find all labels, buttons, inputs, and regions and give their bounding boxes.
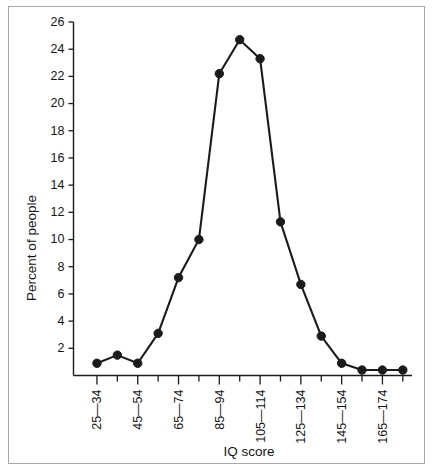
y-axis-title: Percent of people [24, 195, 39, 301]
data-point [337, 359, 345, 367]
y-tick-label: 18 [51, 124, 65, 138]
y-tick-label: 22 [51, 69, 65, 83]
y-tick-label: 4 [58, 314, 65, 328]
x-tick-label: 145—154 [335, 389, 349, 443]
x-axis-tick-labels: 25—3445—5465—7485—94105—114125—134145—15… [90, 389, 389, 443]
data-point [174, 273, 182, 281]
data-point [317, 332, 325, 340]
data-point [276, 218, 284, 226]
data-point [215, 69, 223, 77]
data-point [256, 55, 264, 63]
x-tick-label: 105—114 [254, 389, 268, 442]
y-tick-label: 8 [58, 260, 65, 274]
y-tick-label: 10 [51, 232, 65, 246]
data-point [113, 351, 121, 359]
x-tick-label: 65—74 [172, 389, 186, 429]
data-point [93, 359, 101, 367]
data-point [378, 366, 386, 374]
y-tick-label: 2 [58, 341, 65, 355]
x-tick-label: 25—34 [90, 389, 104, 429]
y-tick-label: 26 [51, 15, 65, 29]
chart-stage: Percent of people 2468101214161820222426… [0, 0, 434, 475]
x-tick-label: 45—54 [131, 389, 145, 429]
data-point [154, 329, 162, 337]
x-axis-ticks [97, 376, 403, 385]
iq-distribution-line-chart: Percent of people 2468101214161820222426… [0, 0, 434, 475]
x-tick-label: 165—174 [376, 389, 390, 443]
y-tick-label: 20 [51, 96, 65, 110]
percent-of-people-series-line [97, 40, 403, 370]
data-point [399, 366, 407, 374]
y-axis-ticks: 2468101214161820222426 [51, 15, 74, 355]
data-point [134, 359, 142, 367]
y-tick-label: 24 [51, 42, 65, 56]
x-tick-label: 125—134 [294, 389, 308, 443]
x-axis-title: IQ score [223, 444, 274, 459]
y-tick-label: 12 [51, 205, 65, 219]
y-tick-label: 16 [51, 151, 65, 165]
percent-of-people-series-markers [93, 35, 407, 374]
y-tick-label: 14 [51, 178, 65, 192]
y-tick-label: 6 [58, 287, 65, 301]
x-tick-label: 85—94 [213, 389, 227, 429]
data-point [358, 366, 366, 374]
data-point [195, 235, 203, 243]
data-point [297, 280, 305, 288]
data-point [235, 35, 243, 43]
